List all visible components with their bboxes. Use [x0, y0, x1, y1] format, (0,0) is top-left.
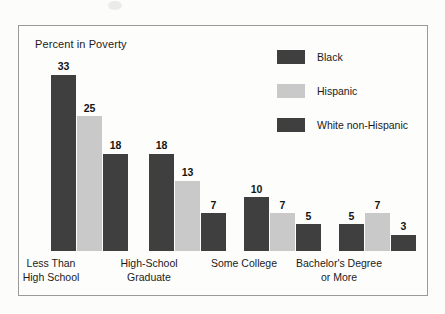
x-axis-group-label: Bachelor's Degreeor More [296, 257, 382, 285]
bar-value-label: 3 [401, 221, 407, 232]
bar: 25 [77, 61, 102, 251]
scan-artifact [108, 1, 122, 10]
bar-rect [365, 213, 390, 251]
scanned-page: Percent in Poverty BlackHispanicWhite no… [0, 0, 445, 314]
bar-rect [270, 213, 295, 251]
bar: 3 [391, 61, 416, 251]
chart-frame: Percent in Poverty BlackHispanicWhite no… [18, 25, 428, 296]
bar-value-label: 10 [251, 184, 263, 195]
bar-rect [175, 181, 200, 251]
bar-value-label: 25 [84, 103, 96, 114]
bar-rect [339, 224, 364, 251]
x-axis-label-line: Some College [211, 257, 277, 271]
bar-rect [51, 75, 76, 252]
x-axis-label-line: or More [296, 271, 382, 285]
bar-rect [296, 224, 321, 251]
bar: 33 [51, 61, 76, 251]
bar-value-label: 5 [306, 211, 312, 222]
bar-value-label: 13 [182, 167, 194, 178]
bar-rect [201, 213, 226, 251]
bar-group-bars: 332518 [51, 61, 128, 251]
bar-value-label: 18 [156, 140, 168, 151]
bar-rect [149, 154, 174, 251]
bar-value-label: 18 [110, 140, 122, 151]
bar-group-bars: 573 [339, 61, 416, 251]
x-axis-group-label: Less ThanHigh School [23, 257, 80, 285]
bar: 13 [175, 61, 200, 251]
x-axis-group-label: Some College [211, 257, 277, 271]
bar-group-bars: 18137 [149, 61, 226, 251]
bar: 7 [270, 61, 295, 251]
x-axis-label-line: Graduate [120, 271, 177, 285]
bar: 5 [339, 61, 364, 251]
bar-value-label: 7 [280, 200, 286, 211]
x-axis-label-line: High-School [120, 257, 177, 271]
bar: 18 [103, 61, 128, 251]
bar: 5 [296, 61, 321, 251]
bar-value-label: 7 [375, 200, 381, 211]
bar-rect [103, 154, 128, 251]
x-axis-label-line: Bachelor's Degree [296, 257, 382, 271]
bar: 7 [365, 61, 390, 251]
bar: 10 [244, 61, 269, 251]
plot-area: 332518Less ThanHigh School18137High-Scho… [19, 26, 429, 297]
bar-rect [77, 116, 102, 251]
bar: 7 [201, 61, 226, 251]
x-axis-label-line: High School [23, 271, 80, 285]
bar-rect [391, 235, 416, 251]
x-axis-group-label: High-SchoolGraduate [120, 257, 177, 285]
bar-value-label: 33 [58, 61, 70, 72]
x-axis-label-line: Less Than [23, 257, 80, 271]
bar-value-label: 7 [211, 200, 217, 211]
bar: 18 [149, 61, 174, 251]
bar-value-label: 5 [349, 211, 355, 222]
bar-group-bars: 1075 [244, 61, 321, 251]
bar-rect [244, 197, 269, 251]
